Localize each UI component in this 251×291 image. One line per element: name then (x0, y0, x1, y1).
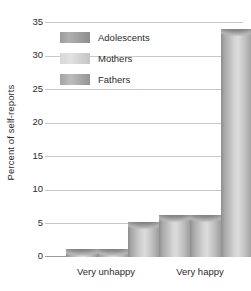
gridline-10 (45, 190, 243, 191)
legend-swatch-mothers (60, 53, 90, 64)
bar-very-happy-adolescents (159, 215, 190, 257)
gridline-15 (45, 156, 243, 157)
y-tick-label-0: 0 (22, 251, 43, 261)
bar-very-unhappy-fathers (128, 222, 159, 257)
bar-very-happy-mothers (190, 215, 221, 257)
y-axis-title: Percent of self-reports (0, 0, 22, 265)
bar-cap (221, 29, 251, 38)
legend-swatch-adolescents (60, 32, 90, 43)
y-tick-label-25: 25 (22, 84, 43, 94)
bar-cap (97, 249, 128, 258)
y-tick-label-15: 15 (22, 151, 43, 161)
bar-cap (159, 215, 190, 224)
y-tick-label-30: 30 (22, 50, 43, 60)
y-axis-title-label: Percent of self-reports (6, 85, 17, 181)
legend-item-mothers: Mothers (60, 48, 185, 69)
legend: Adolescents Mothers Fathers (60, 27, 185, 90)
bar-cap (128, 222, 159, 231)
x-tick-label-very-happy: Very happy (145, 266, 251, 277)
legend-item-adolescents: Adolescents (60, 27, 185, 48)
y-tick-label-10: 10 (22, 184, 43, 194)
legend-label-mothers: Mothers (98, 53, 132, 64)
gridline-35 (45, 22, 243, 23)
gridline-20 (45, 123, 243, 124)
legend-swatch-fathers (60, 74, 90, 85)
legend-label-fathers: Fathers (98, 74, 130, 85)
y-tick-label-20: 20 (22, 117, 43, 127)
y-tick-label-35: 35 (22, 17, 43, 27)
bar-cap (190, 215, 221, 224)
bar-very-unhappy-adolescents (66, 249, 97, 257)
legend-label-adolescents: Adolescents (98, 32, 150, 43)
bar-cap (66, 249, 97, 258)
y-tick-label-5: 5 (22, 218, 43, 228)
legend-item-fathers: Fathers (60, 69, 185, 90)
bar-very-happy-fathers (221, 29, 251, 257)
bar-chart: Percent of self-reports 35 30 25 20 15 1… (0, 0, 251, 291)
bar-very-unhappy-mothers (97, 249, 128, 257)
